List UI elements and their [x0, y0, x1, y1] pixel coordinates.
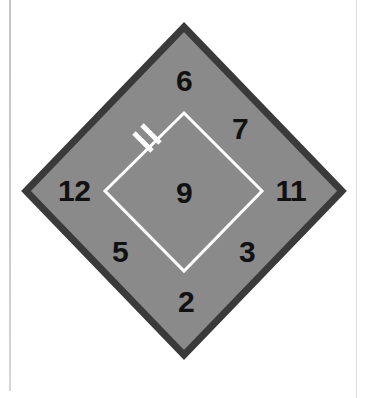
label-center: 9	[176, 178, 192, 208]
label-bottom: 2	[178, 287, 194, 317]
label-left: 12	[58, 176, 90, 206]
label-lower-left: 5	[112, 237, 128, 267]
label-right: 11	[276, 176, 307, 206]
label-top: 6	[176, 66, 192, 96]
label-upper-right: 7	[232, 114, 248, 144]
figure-canvas: 6 7 11 3 2 5 12 9	[0, 0, 368, 398]
label-lower-right: 3	[239, 237, 255, 267]
